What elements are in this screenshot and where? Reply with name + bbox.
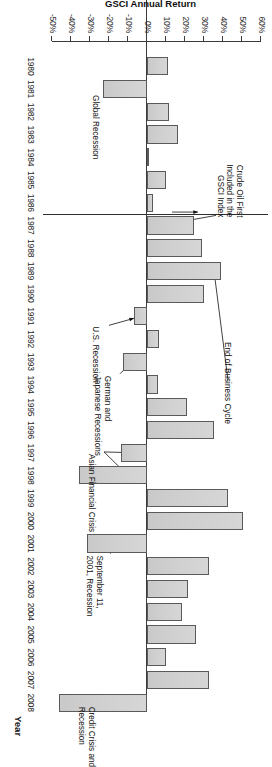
- value-axis-tick: [241, 36, 242, 41]
- chart-annotation-global-recession: Global Recession: [91, 95, 101, 159]
- bar: [147, 421, 214, 439]
- bar: [147, 216, 194, 234]
- category-axis-label: 1997: [26, 444, 36, 462]
- bar: [59, 694, 147, 712]
- bar: [147, 512, 243, 530]
- bar: [147, 262, 221, 280]
- category-axis-label: 1983: [26, 125, 36, 143]
- chart-annotation-credit-crisis-and-recession: Credit Crisis and Recession: [77, 707, 96, 767]
- chart-annotation-end-of-business-cycle: End of Business Cycle: [223, 304, 233, 424]
- bar: [121, 444, 147, 462]
- bar: [147, 648, 166, 666]
- category-axis-label: 1999: [26, 489, 36, 507]
- category-axis-label: 2001: [26, 535, 36, 553]
- bar: [123, 353, 147, 371]
- bar: [147, 375, 158, 393]
- bar: [147, 285, 204, 303]
- value-axis-tick: [127, 36, 128, 41]
- bar: [147, 671, 209, 689]
- category-axis-label: 1998: [26, 466, 36, 484]
- value-axis-tick: [222, 36, 223, 41]
- category-axis-label: 1981: [26, 80, 36, 98]
- category-axis-label: 2004: [26, 603, 36, 621]
- value-axis-tick-label: 60%: [257, 3, 267, 33]
- bar: [147, 603, 182, 621]
- category-axis-label: 1995: [26, 398, 36, 416]
- category-axis-label: 1987: [26, 216, 36, 234]
- value-axis-tick-label: -30%: [86, 3, 96, 33]
- value-axis-tick-label: -40%: [67, 3, 77, 33]
- value-axis-tick-label: -50%: [48, 3, 58, 33]
- value-axis-tick: [203, 36, 204, 41]
- bar: [147, 148, 149, 166]
- bar: [147, 489, 228, 507]
- category-axis-label: 1980: [26, 57, 36, 75]
- value-axis-tick: [146, 36, 147, 41]
- category-axis-title: Year: [13, 716, 24, 736]
- value-axis-tick: [70, 36, 71, 41]
- value-axis-tick: [51, 36, 52, 41]
- bar: [147, 330, 159, 348]
- category-axis-label: 1996: [26, 421, 36, 439]
- value-axis-tick: [89, 36, 90, 41]
- chart-annotation-crude-oil-first-included: Crude Oil First Included in the GSCI Ind…: [216, 97, 245, 217]
- category-axis-label: 1992: [26, 330, 36, 348]
- chart-annotation-german-japanese-recessions: German and Japanese Recessions: [93, 376, 112, 456]
- value-axis-tick: [260, 36, 261, 41]
- bar: [147, 557, 209, 575]
- bar: [147, 398, 187, 416]
- category-axis-label: 1984: [26, 148, 36, 166]
- category-axis-label: 1993: [26, 353, 36, 371]
- bar: [147, 239, 202, 257]
- bar: [134, 307, 147, 325]
- bar: [147, 625, 196, 643]
- category-axis-label: 1982: [26, 103, 36, 121]
- chart-annotation-asian-financial-crisis: Asian Financial Crisis: [87, 454, 97, 532]
- value-axis-tick-label: 30%: [200, 3, 210, 33]
- value-axis-title: GSCI Annual Return: [106, 0, 197, 9]
- category-axis-label: 1991: [26, 307, 36, 325]
- bar: [147, 194, 153, 212]
- category-axis-label: 2008: [26, 694, 36, 712]
- value-axis-tick-label: 40%: [219, 3, 229, 33]
- category-axis-label: 2007: [26, 671, 36, 689]
- value-axis-tick: [108, 36, 109, 41]
- category-axis-label: 1989: [26, 262, 36, 280]
- category-axis-label: 1990: [26, 285, 36, 303]
- category-axis-label: 2002: [26, 557, 36, 575]
- category-axis-label: 1986: [26, 194, 36, 212]
- category-axis-label: 2005: [26, 625, 36, 643]
- chart-annotation-september-11-2001-recession: September 11, 2001, Recession: [85, 556, 104, 617]
- category-axis-label: 1988: [26, 239, 36, 257]
- bar: [87, 534, 147, 552]
- category-axis-label: 2003: [26, 580, 36, 598]
- value-axis-tick: [184, 36, 185, 41]
- bar: [103, 80, 147, 98]
- bar: [147, 103, 169, 121]
- category-axis-label: 1985: [26, 171, 36, 189]
- bar: [147, 57, 168, 75]
- category-axis-label: 2000: [26, 512, 36, 530]
- bar: [147, 580, 188, 598]
- value-axis-tick: [165, 36, 166, 41]
- chart-annotation-us-recession: U.S. Recession: [91, 326, 101, 382]
- category-axis-label: 2006: [26, 648, 36, 666]
- category-axis-label: 1994: [26, 375, 36, 393]
- value-axis-line: [52, 41, 261, 42]
- bar: [147, 171, 166, 189]
- value-axis-tick-label: 50%: [238, 3, 248, 33]
- bar: [147, 125, 178, 143]
